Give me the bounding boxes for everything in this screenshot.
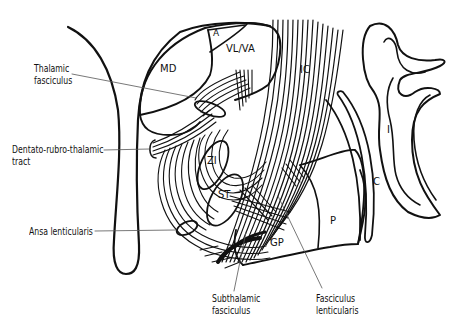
internal-capsule-fibers — [222, 20, 343, 262]
label-c: C — [373, 176, 380, 187]
label-gp: GP — [270, 237, 284, 248]
callout-fasciculus-lenticularis: Fasciculus lenticularis — [316, 292, 358, 316]
thalamus-lower — [140, 115, 200, 135]
ansa-marker — [174, 218, 199, 238]
callout-ansa-lenticularis: Ansa lenticularis — [29, 225, 93, 237]
leader-fasciculus-lenticularis — [278, 196, 322, 288]
claustrum-outline — [337, 91, 373, 242]
drt-fibers — [153, 110, 216, 155]
insula-outer — [363, 23, 445, 217]
label-vl-va: VL/VA — [226, 43, 255, 54]
callout-dentato-rubro-thalamic-tract: Dentato-rubro-thalamic tract — [12, 143, 103, 167]
label-i: I — [387, 124, 390, 135]
leader-drt — [104, 149, 150, 150]
callout-thalamic-fasciculus: Thalamic fasciculus — [34, 62, 72, 86]
label-md: MD — [160, 63, 176, 74]
thalamic-fasciculus-marker — [193, 98, 227, 120]
label-p: P — [330, 215, 336, 226]
insula-inner — [384, 38, 436, 205]
leader-ansa — [95, 230, 176, 231]
label-st: ST — [218, 189, 230, 200]
callout-subthalamic-fasciculus: Subthalamic fasciculus — [212, 292, 260, 316]
label-a: A — [213, 28, 219, 38]
anatomy-diagram: MD A VL/VA IC I C ZI ST P GP Thalamic fa… — [0, 0, 457, 329]
label-ic: IC — [300, 64, 310, 75]
label-zi: ZI — [207, 155, 217, 166]
leader-thalamic-fasciculus — [72, 74, 196, 98]
